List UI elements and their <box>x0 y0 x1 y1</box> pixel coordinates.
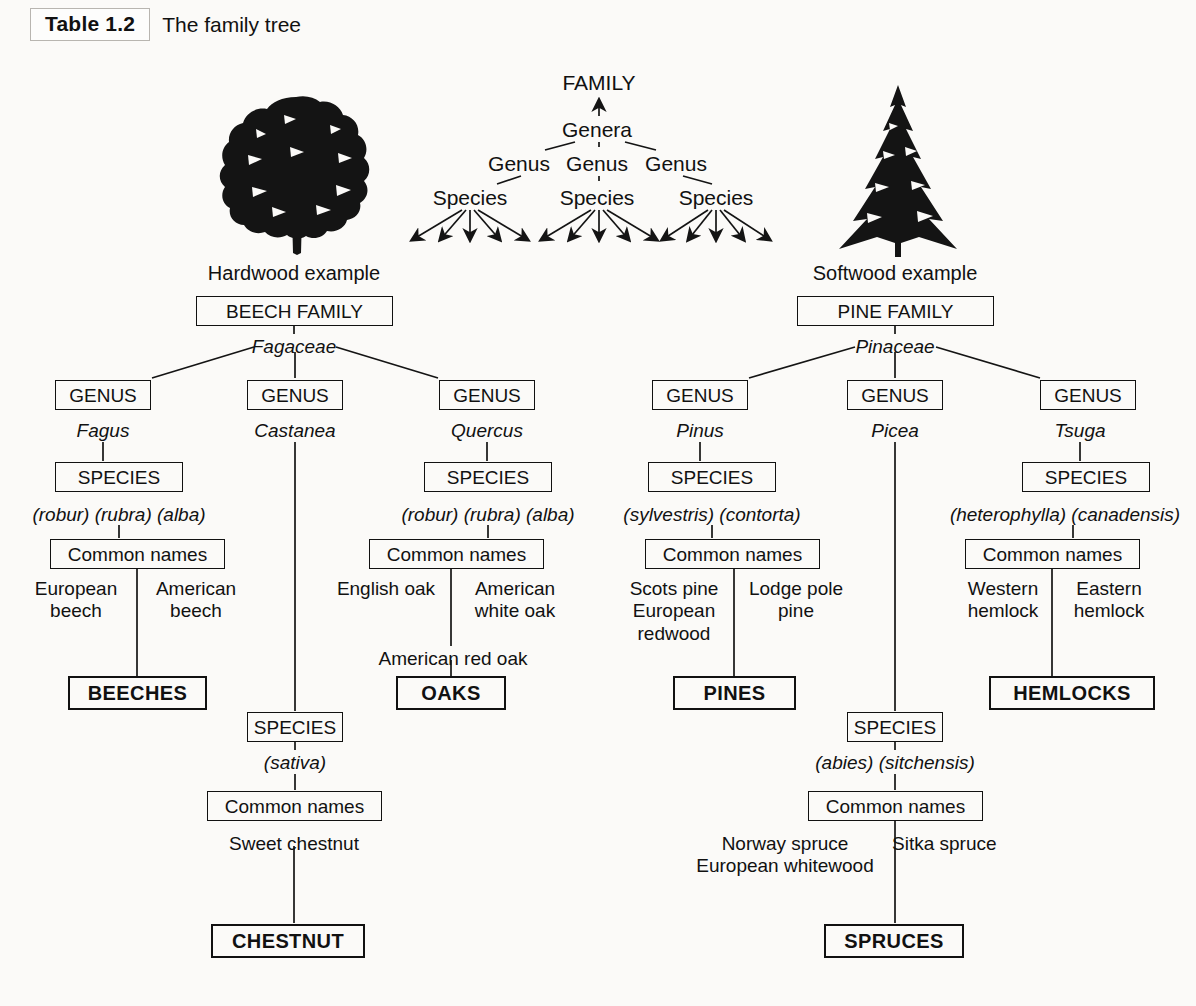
species-box-tsuga[interactable]: SPECIES <box>1022 462 1150 492</box>
result-box-pines[interactable]: PINES <box>673 676 796 710</box>
genus-box-picea[interactable]: GENUS <box>847 380 943 410</box>
common-names-box-chestnut[interactable]: Common names <box>207 791 382 821</box>
concept-species-label-2: Species <box>560 186 635 210</box>
species-box-fagus[interactable]: SPECIES <box>55 462 183 492</box>
hardwood-example-caption: Hardwood example <box>208 262 380 286</box>
pine-family-box[interactable]: PINE FAMILY <box>797 296 994 326</box>
oak-common-right: American white oak <box>445 578 585 623</box>
table-title: The family tree <box>162 13 301 37</box>
table-figure-page: Table 1.2 The family tree <box>0 0 1196 1006</box>
spruce-common-right: Sitka spruce <box>892 833 1032 855</box>
beech-common-left: European beech <box>11 578 141 623</box>
concept-species-label-1: Species <box>433 186 508 210</box>
figure-caption: Table 1.2 The family tree <box>30 8 301 41</box>
picea-latin-label: Picea <box>871 420 919 442</box>
species-box-picea[interactable]: SPECIES <box>847 712 943 742</box>
pinus-species-epithets: (sylvestris) (contorta) <box>623 504 800 526</box>
table-number-badge: Table 1.2 <box>30 8 150 41</box>
beech-family-box[interactable]: BEECH FAMILY <box>196 296 393 326</box>
softwood-example-caption: Softwood example <box>813 262 978 286</box>
result-box-beeches[interactable]: BEECHES <box>68 676 207 710</box>
result-box-hemlocks[interactable]: HEMLOCKS <box>989 676 1155 710</box>
tsuga-latin-label: Tsuga <box>1054 420 1105 442</box>
picea-species-epithets: (abies) (sitchensis) <box>815 752 974 774</box>
concept-genera-label: Genera <box>562 118 632 142</box>
conifer-tree-icon <box>823 85 973 260</box>
oak-common-extra: American red oak <box>379 648 528 670</box>
pinus-latin-label: Pinus <box>676 420 724 442</box>
species-box-pinus[interactable]: SPECIES <box>648 462 776 492</box>
common-names-box-hemlock[interactable]: Common names <box>965 539 1140 569</box>
species-box-castanea[interactable]: SPECIES <box>247 712 343 742</box>
hemlock-common-right: Eastern hemlock <box>1044 578 1174 623</box>
concept-genus-label-1: Genus <box>488 152 550 176</box>
concept-species-label-3: Species <box>679 186 754 210</box>
pine-common-right: Lodge pole pine <box>721 578 871 623</box>
fagus-latin-label: Fagus <box>77 420 130 442</box>
species-box-quercus[interactable]: SPECIES <box>424 462 552 492</box>
result-box-chestnut[interactable]: CHESTNUT <box>211 924 365 958</box>
result-box-oaks[interactable]: OAKS <box>396 676 506 710</box>
common-names-box-oak[interactable]: Common names <box>369 539 544 569</box>
oak-common-left: English oak <box>321 578 451 600</box>
broadleaf-tree-icon <box>212 95 382 260</box>
genus-box-castanea[interactable]: GENUS <box>247 380 343 410</box>
castanea-latin-label: Castanea <box>254 420 335 442</box>
chestnut-common-center: Sweet chestnut <box>229 833 359 855</box>
concept-genus-label-3: Genus <box>645 152 707 176</box>
common-names-box-spruce[interactable]: Common names <box>808 791 983 821</box>
castanea-species-epithets: (sativa) <box>264 752 326 774</box>
pinaceae-latin-label: Pinaceae <box>855 336 934 358</box>
fagaceae-latin-label: Fagaceae <box>252 336 337 358</box>
common-names-box-beech[interactable]: Common names <box>50 539 225 569</box>
fagus-species-epithets: (robur) (rubra) (alba) <box>32 504 205 526</box>
common-names-box-pine[interactable]: Common names <box>645 539 820 569</box>
quercus-latin-label: Quercus <box>451 420 523 442</box>
genus-box-pinus[interactable]: GENUS <box>652 380 748 410</box>
genus-box-fagus[interactable]: GENUS <box>55 380 151 410</box>
result-box-spruces[interactable]: SPRUCES <box>824 924 964 958</box>
spruce-common-left: Norway spruce European whitewood <box>680 833 890 878</box>
concept-genus-label-2: Genus <box>566 152 628 176</box>
genus-box-tsuga[interactable]: GENUS <box>1040 380 1136 410</box>
concept-family-label: FAMILY <box>562 71 635 95</box>
genus-box-quercus[interactable]: GENUS <box>439 380 535 410</box>
tsuga-species-epithets: (heterophylla) (canadensis) <box>950 504 1180 526</box>
beech-common-right: American beech <box>131 578 261 623</box>
quercus-species-epithets: (robur) (rubra) (alba) <box>401 504 574 526</box>
